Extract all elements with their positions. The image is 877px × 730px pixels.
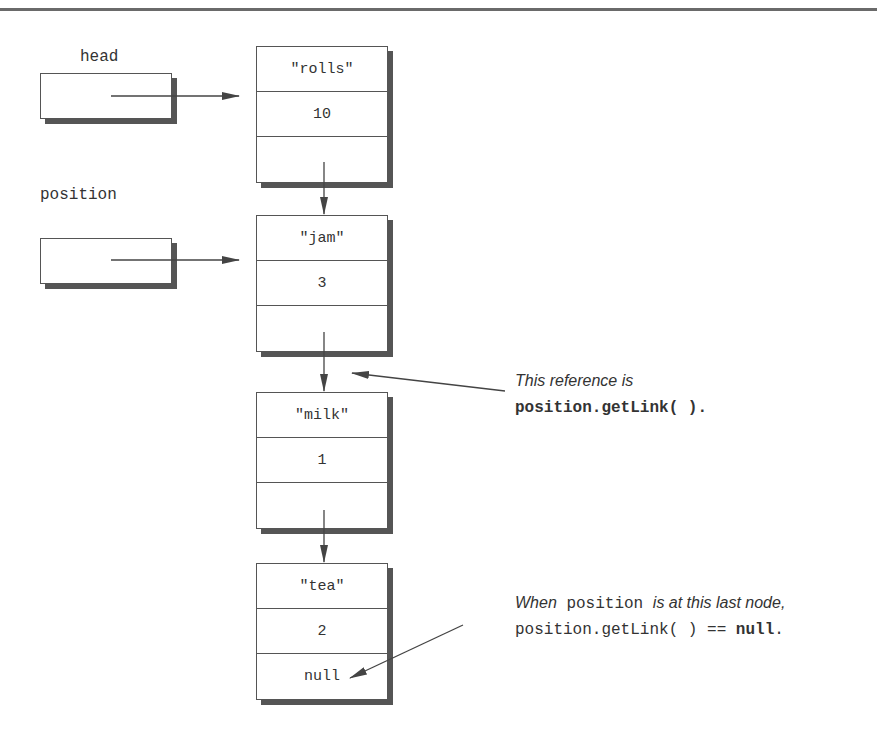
annotation-pointer-null bbox=[350, 625, 463, 678]
annotation-pointer-reference bbox=[352, 373, 505, 391]
annotation-reference: This reference is position.getLink( ). bbox=[515, 368, 707, 421]
annotation-period: . bbox=[774, 621, 784, 639]
annotation-code-null: null bbox=[736, 621, 774, 639]
annotation-code: position.getLink( ) == bbox=[515, 621, 726, 639]
annotation-text: When bbox=[515, 594, 557, 611]
annotation-code: position.getLink( ) bbox=[515, 399, 697, 417]
annotation-text: This reference is bbox=[515, 372, 633, 389]
annotation-null: When position is at this last node, posi… bbox=[515, 590, 785, 643]
annotation-text: is at this last node, bbox=[653, 594, 786, 611]
annotation-period: . bbox=[697, 399, 707, 417]
annotation-code: position bbox=[566, 595, 643, 613]
